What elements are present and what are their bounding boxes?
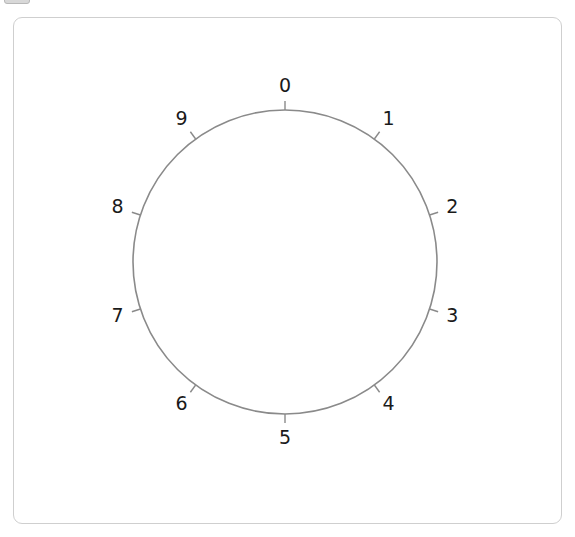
dial-tick-6 — [190, 385, 195, 392]
dial-tick-label-9: 9 — [176, 107, 188, 129]
dial-tick-2 — [430, 212, 439, 215]
dial-plot: 0123456789 — [0, 0, 575, 537]
dial-tick-label-5: 5 — [279, 426, 291, 448]
dial-tick-label-3: 3 — [446, 304, 458, 326]
dial-tick-label-4: 4 — [382, 392, 394, 414]
dial-labels-group: 0123456789 — [112, 74, 459, 448]
dial-tick-4 — [374, 385, 379, 392]
dial-tick-9 — [190, 132, 195, 139]
dial-tick-label-7: 7 — [112, 304, 124, 326]
dial-tick-8 — [132, 212, 141, 215]
dial-tick-1 — [374, 132, 379, 139]
dial-tick-7 — [132, 309, 141, 312]
dial-tick-label-6: 6 — [176, 392, 188, 414]
dial-widget-root: 0123456789 — [0, 0, 575, 537]
dial-tick-label-2: 2 — [446, 195, 458, 217]
dial-circle-group — [133, 110, 437, 414]
dial-tick-label-1: 1 — [382, 107, 394, 129]
dial-circle — [133, 110, 437, 414]
dial-tick-label-8: 8 — [112, 195, 124, 217]
dial-tick-3 — [430, 309, 439, 312]
dial-tick-label-0: 0 — [279, 74, 291, 96]
dial-ticks-group — [132, 101, 438, 423]
